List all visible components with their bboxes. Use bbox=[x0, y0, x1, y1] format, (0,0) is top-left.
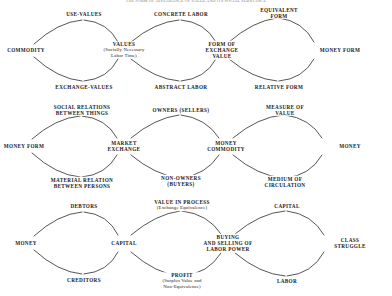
node-exchange-values: EXCHANGE-VALUES bbox=[54, 84, 114, 90]
arc-r2c2-upper-left bbox=[131, 115, 179, 138]
arc-r3c1-lower-right bbox=[84, 252, 118, 274]
node-capital-top-r3: CAPITAL bbox=[273, 203, 301, 209]
arc-r1c2-upper-left bbox=[131, 20, 179, 42]
node-money-form-r1: MONEY FORM bbox=[318, 47, 361, 53]
node-money-commodity: MONEY COMMODITY bbox=[206, 140, 247, 152]
arc-r1c1-upper-left bbox=[34, 20, 82, 44]
arc-r2c1-lower-right bbox=[82, 155, 117, 177]
arc-r1c3-lower-right bbox=[279, 59, 314, 81]
node-owners-sellers: OWNERS (SELLERS) bbox=[151, 107, 211, 113]
node-buying-and-selling-of-labor-power: BUYING AND SELLING OF LABOR POWER bbox=[202, 234, 254, 253]
node-relative-form: RELATIVE FORM bbox=[253, 84, 304, 90]
node-abstract-labor: ABSTRACT LABOR bbox=[153, 84, 209, 90]
arc-r2c1-lower-left bbox=[32, 153, 80, 177]
node-material-relation-between-persons: MATERIAL RELATION BETWEEN PERSONS bbox=[49, 177, 114, 189]
arc-r1c1-lower-right bbox=[84, 59, 118, 81]
arc-r3c2-upper-right bbox=[182, 211, 221, 234]
arc-r1c1-upper-right bbox=[84, 20, 118, 42]
node-concrete-labor: CONCRETE LABOR bbox=[152, 11, 209, 17]
node-non-owners-buyers: NON-OWNERS (BUYERS) bbox=[160, 175, 203, 187]
arc-r3c3-upper-left bbox=[235, 211, 285, 234]
node-creditors: CREDITORS bbox=[66, 277, 103, 283]
node-market-exchange: MARKET EXCHANGE bbox=[106, 140, 142, 152]
node-commodity: COMMODITY bbox=[6, 47, 47, 53]
arc-r1c2-lower-left bbox=[131, 59, 179, 81]
node-money-form-r2: MONEY FORM bbox=[2, 143, 45, 149]
node-use-values: USE-VALUES bbox=[65, 11, 104, 17]
arc-r3c2-upper-left bbox=[131, 211, 180, 235]
node-social-relations-between-things: SOCIAL RELATIONS BETWEEN THINGS bbox=[52, 104, 112, 116]
arc-r3c3-lower-left bbox=[235, 253, 285, 276]
diagram-title: THE FORM OF APPEARANCE OF VALUE AND ITS … bbox=[0, 0, 392, 3]
node-class-struggle: CLASS STRUGGLE bbox=[333, 237, 368, 249]
node-profit: PROFIT (Surplus Value and Non-Equivalenc… bbox=[161, 272, 203, 289]
node-debtors: DEBTORS bbox=[69, 203, 99, 209]
node-money-r3: MONEY bbox=[14, 240, 39, 246]
arc-r1c1-lower-left bbox=[34, 57, 82, 81]
arc-r1c2-lower-right bbox=[181, 59, 216, 81]
arc-r1c3-upper-left bbox=[229, 18, 277, 42]
node-equivalent-form: EQUIVALENT FORM bbox=[259, 7, 300, 19]
arc-r1c3-lower-left bbox=[229, 59, 277, 81]
node-money-r2: MONEY bbox=[338, 143, 363, 149]
arc-r3c1-upper-left bbox=[34, 212, 82, 236]
arc-r3c1-lower-left bbox=[34, 250, 82, 274]
arc-r2c3-upper-right bbox=[285, 115, 322, 138]
node-capital-r3: CAPITAL bbox=[110, 240, 138, 246]
arc-r1c2-upper-right bbox=[181, 20, 216, 42]
arc-r2c3-lower-left bbox=[233, 155, 283, 178]
arc-r2c2-upper-right bbox=[181, 115, 219, 138]
arc-r1c3-upper-right bbox=[279, 18, 314, 42]
dialectical-derivation-diagram: THE FORM OF APPEARANCE OF VALUE AND ITS … bbox=[0, 0, 392, 296]
arc-r2c1-upper-right bbox=[82, 116, 117, 138]
node-value-in-process: VALUE IN PROCESS (Exchange Equivalence) bbox=[153, 199, 211, 211]
arc-r3c1-upper-right bbox=[84, 212, 118, 235]
node-measure-of-value: MEASURE OF VALUE bbox=[265, 104, 306, 116]
arc-r2c3-lower-right bbox=[285, 155, 322, 178]
node-form-of-exchange-value: FORM OF EXCHANGE VALUE bbox=[204, 41, 240, 60]
node-labor: LABOR bbox=[275, 278, 298, 284]
node-medium-of-circulation: MEDIUM OF CIRCULATION bbox=[263, 176, 307, 188]
arc-r2c3-upper-left bbox=[233, 115, 283, 138]
arc-r3c3-upper-right bbox=[287, 211, 324, 235]
node-values: VALUES (Socially Necessary Labor Time) bbox=[102, 41, 146, 58]
arc-layer bbox=[0, 0, 392, 296]
arc-r3c3-lower-right bbox=[287, 252, 324, 276]
arc-r2c1-upper-left bbox=[32, 116, 80, 139]
